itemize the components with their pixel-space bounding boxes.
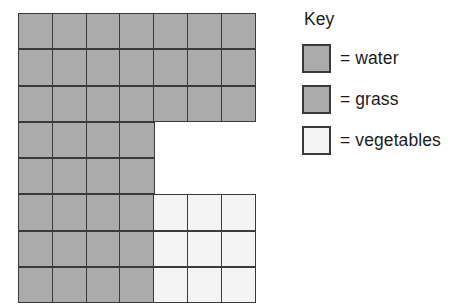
grid-row xyxy=(18,231,266,267)
grid-cell-empty xyxy=(153,158,188,194)
grid-cell-grass xyxy=(52,49,87,85)
grid-row xyxy=(18,49,266,85)
grid-cell-grass xyxy=(119,158,154,194)
grid-cell-vegetables xyxy=(153,267,188,303)
grid-cell-grass xyxy=(119,122,154,158)
grid-cell-grass xyxy=(119,194,154,230)
grid-cell-grass xyxy=(52,194,87,230)
grid-row xyxy=(18,122,266,158)
grid-cell-grass xyxy=(52,122,87,158)
grid-cell-grass xyxy=(86,86,121,122)
grid-row xyxy=(18,267,266,303)
grid-cell-grass xyxy=(187,86,222,122)
vegetables-swatch xyxy=(302,126,331,155)
grid-cell-grass xyxy=(153,13,188,49)
grid-cell-grass xyxy=(187,49,222,85)
key-title: Key xyxy=(304,8,464,30)
grid-cell-grass xyxy=(86,267,121,303)
grid-cell-empty xyxy=(221,158,256,194)
grid-map xyxy=(18,13,266,304)
key-panel: Key = water= grass= vegetables xyxy=(302,8,464,161)
grid-cell-grass xyxy=(153,49,188,85)
grid-cell-grass xyxy=(221,86,256,122)
grass-swatch xyxy=(302,85,331,114)
grid-cell-grass xyxy=(119,231,154,267)
grid-cell-empty xyxy=(187,158,222,194)
grid-cell-vegetables xyxy=(221,231,256,267)
grid-cell-empty xyxy=(187,122,222,158)
grid-row xyxy=(18,86,266,122)
grid-cell-vegetables xyxy=(153,194,188,230)
grid-cell-grass xyxy=(221,13,256,49)
grid-row xyxy=(18,13,266,49)
grid-cell-grass xyxy=(86,158,121,194)
grid-cell-vegetables xyxy=(187,267,222,303)
figure-canvas: Key = water= grass= vegetables xyxy=(0,0,467,304)
grid-cell-grass xyxy=(119,86,154,122)
grid-cell-vegetables xyxy=(187,194,222,230)
grid-cell-grass xyxy=(119,13,154,49)
key-entry-water: = water xyxy=(302,38,464,79)
grid-cell-grass xyxy=(86,49,121,85)
grid-cell-grass xyxy=(18,158,53,194)
grid-cell-grass xyxy=(18,122,53,158)
key-entry-list: = water= grass= vegetables xyxy=(302,38,464,161)
grid-cell-grass xyxy=(187,13,222,49)
grid-cell-grass xyxy=(18,267,53,303)
key-entry-label-water: = water xyxy=(340,48,399,69)
grid-cell-grass xyxy=(18,86,53,122)
grid-cell-vegetables xyxy=(221,267,256,303)
key-entry-vegetables: = vegetables xyxy=(302,120,464,161)
grid-cell-grass xyxy=(86,194,121,230)
grid-cell-grass xyxy=(86,122,121,158)
grid-cell-grass xyxy=(119,267,154,303)
grid-cell-grass xyxy=(18,194,53,230)
grid-cell-vegetables xyxy=(221,194,256,230)
water-swatch xyxy=(302,44,331,73)
key-entry-label-grass: = grass xyxy=(340,89,399,110)
grid-cell-grass xyxy=(153,86,188,122)
grid-cell-grass xyxy=(52,158,87,194)
grid-cell-vegetables xyxy=(153,231,188,267)
key-entry-grass: = grass xyxy=(302,79,464,120)
grid-cell-empty xyxy=(221,122,256,158)
grid-cell-grass xyxy=(52,231,87,267)
grid-cell-vegetables xyxy=(187,231,222,267)
grid-cell-grass xyxy=(221,49,256,85)
grid-cell-grass xyxy=(18,231,53,267)
grid-cell-grass xyxy=(18,49,53,85)
grid-cell-empty xyxy=(153,122,188,158)
grid-cell-grass xyxy=(86,231,121,267)
grid-cell-grass xyxy=(52,267,87,303)
grid-cell-grass xyxy=(119,49,154,85)
key-entry-label-vegetables: = vegetables xyxy=(340,130,441,151)
grid-cell-grass xyxy=(52,86,87,122)
grid-row xyxy=(18,194,266,230)
grid-row xyxy=(18,158,266,194)
grid-cell-grass xyxy=(52,13,87,49)
grid-cell-grass xyxy=(86,13,121,49)
grid-cell-grass xyxy=(18,13,53,49)
